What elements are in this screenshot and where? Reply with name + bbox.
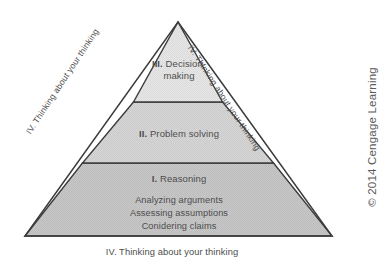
- tier-reasoning-item: Conidering claims: [100, 220, 258, 233]
- tier-label-reasoning: I. Reasoning: [110, 173, 248, 185]
- tier-numeral-three: III.: [152, 58, 163, 69]
- tier-label-decision-making-line1: III. Decision-: [128, 58, 230, 70]
- tier-numeral-two: II.: [139, 128, 147, 139]
- copyright-text: © 2014 Cengage Learning: [366, 67, 378, 207]
- critical-thinking-pyramid-figure: III. Decision- making II. Problem solvin…: [0, 0, 387, 274]
- tier-label-reasoning-text: Reasoning: [160, 173, 206, 184]
- tier-reasoning-item: Analyzing arguments: [100, 194, 258, 207]
- tier-label-problem-solving-text: Problem solving: [150, 128, 219, 139]
- tier-reasoning-item: Assessing assumptions: [100, 207, 258, 220]
- copyright-notice: © 2014 Cengage Learning: [361, 0, 383, 274]
- tier-reasoning-item-list: Analyzing arguments Assessing assumption…: [100, 194, 258, 233]
- bottom-caption-thinking-about-your-thinking: IV. Thinking about your thinking: [0, 247, 344, 257]
- tier-label-problem-solving: II. Problem solving: [105, 128, 253, 140]
- tier-label-problem-solving-line: II. Problem solving: [105, 128, 253, 140]
- tier-numeral-one: I.: [152, 173, 157, 184]
